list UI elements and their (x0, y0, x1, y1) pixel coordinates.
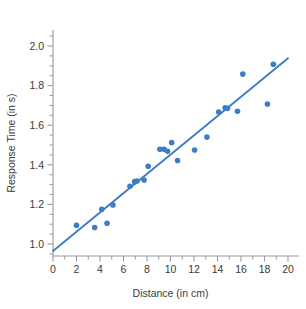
x-tick-label: 6 (121, 263, 127, 275)
x-tick-label: 4 (97, 263, 103, 275)
data-point (127, 183, 133, 189)
chart-canvas: 1.01.21.41.61.82.0 02468101214161820 Dis… (0, 0, 306, 309)
x-tick-label: 8 (144, 263, 150, 275)
y-axis-title: Response Time (in s) (5, 93, 17, 192)
x-tick-label: 12 (188, 263, 200, 275)
y-tick-label: 1.0 (29, 238, 44, 250)
scatter-plot-figure: 1.01.21.41.61.82.0 02468101214161820 Dis… (0, 0, 306, 309)
data-point (141, 177, 147, 183)
data-point (235, 109, 241, 115)
x-tick-label: 20 (282, 263, 294, 275)
y-tick-label: 1.8 (29, 79, 44, 91)
data-point (169, 140, 175, 146)
data-point (240, 71, 246, 77)
data-point (216, 109, 222, 115)
x-axis: 02468101214161820 (50, 256, 299, 275)
x-tick-label: 16 (235, 263, 247, 275)
data-point (74, 222, 80, 228)
y-tick-label: 1.6 (29, 119, 44, 131)
x-tick-label: 0 (50, 263, 56, 275)
data-point (145, 163, 151, 169)
data-point (134, 178, 140, 184)
y-tick-label: 1.4 (29, 159, 44, 171)
y-tick-label: 1.2 (29, 198, 44, 210)
data-point (104, 220, 110, 226)
regression-line (53, 58, 288, 251)
data-point (204, 134, 210, 140)
data-point (175, 158, 181, 164)
x-tick-label: 14 (212, 263, 224, 275)
x-axis-title: Distance (in cm) (133, 287, 209, 299)
y-axis: 1.01.21.41.61.82.0 (29, 30, 53, 256)
data-point (192, 147, 198, 153)
data-point (271, 61, 277, 67)
x-tick-label: 10 (165, 263, 177, 275)
data-point (265, 101, 271, 107)
data-point (225, 106, 231, 112)
y-tick-label: 2.0 (29, 40, 44, 52)
data-points (74, 61, 276, 230)
data-point (99, 207, 105, 213)
data-point (110, 202, 116, 208)
x-tick-label: 18 (259, 263, 271, 275)
trend-line (53, 58, 288, 251)
data-point (92, 225, 98, 231)
x-tick-label: 2 (74, 263, 80, 275)
data-point (165, 149, 171, 155)
